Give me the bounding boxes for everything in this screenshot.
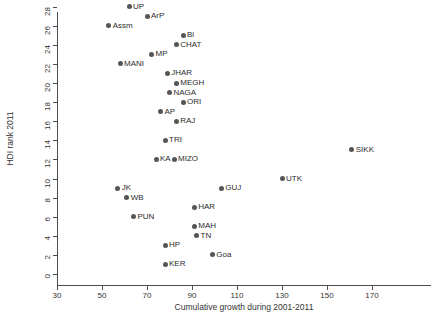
data-point [181, 33, 186, 38]
data-point-label: TRI [169, 136, 182, 144]
x-axis-title: Cumulative growth during 2001-2011 [57, 303, 431, 312]
y-axis-tick [53, 7, 57, 8]
data-point [174, 42, 179, 47]
x-axis-line [57, 285, 431, 286]
y-axis-tick-label: 18 [44, 102, 52, 124]
scatter-chart-figure: 024681012141618202224262830 305070901101… [0, 0, 437, 330]
data-point-label: Assm [113, 22, 133, 30]
data-point-label: GUJ [225, 184, 241, 192]
data-point-label: JK [122, 184, 131, 192]
x-axis-tick-label: 130 [267, 292, 297, 300]
x-axis-tick [102, 286, 103, 290]
data-point [127, 4, 132, 9]
data-point-label: WB [131, 194, 144, 202]
data-point-label: MIZO [178, 155, 198, 163]
data-point [280, 176, 285, 181]
data-point-label: CHAT [180, 41, 201, 49]
data-point [163, 138, 168, 143]
data-point [149, 52, 154, 57]
x-axis-tick-label: 70 [132, 292, 162, 300]
data-point [118, 61, 123, 66]
y-axis-tick-label: 22 [44, 64, 52, 86]
x-axis-tick-label: 90 [177, 292, 207, 300]
data-point-label: AP [165, 108, 176, 116]
data-point-label: MAH [198, 222, 216, 230]
data-point [131, 214, 136, 219]
data-point-label: ORI [187, 98, 201, 106]
x-axis-tick [237, 286, 238, 290]
data-point [124, 195, 129, 200]
data-point [172, 157, 177, 162]
data-point [167, 90, 172, 95]
data-point [154, 157, 159, 162]
y-axis-tick-label: 24 [44, 45, 52, 67]
data-point-label: KA [160, 155, 171, 163]
y-axis-tick-label: 16 [44, 121, 52, 143]
x-axis-tick-label: 170 [357, 292, 387, 300]
data-point-label: MEGH [180, 79, 204, 87]
data-point-label: KER [169, 260, 185, 268]
data-point [194, 233, 199, 238]
data-point [106, 23, 111, 28]
y-axis-tick-label: 10 [44, 179, 52, 201]
x-axis-tick [192, 286, 193, 290]
data-point-label: ArP [151, 12, 164, 20]
x-axis-tick-label: 30 [42, 292, 72, 300]
data-point [349, 147, 354, 152]
x-axis-tick-label: 150 [312, 292, 342, 300]
data-point-label: MP [156, 50, 168, 58]
data-point-label: JHAR [171, 69, 192, 77]
data-point-label: SIKK [356, 146, 374, 154]
data-point [219, 186, 224, 191]
y-axis-tick-label: 4 [44, 236, 52, 258]
data-point-label: MANI [124, 60, 144, 68]
data-point-label: Bi [187, 31, 194, 39]
x-axis-tick [372, 286, 373, 290]
data-point [181, 100, 186, 105]
x-axis-tick [147, 286, 148, 290]
data-point [192, 224, 197, 229]
x-axis-tick-label: 50 [87, 292, 117, 300]
y-axis-title: HDI rank 2011 [6, 89, 15, 189]
plot-area: UPArPAssmBiCHATMPMANIJHARMEGHNAGAORIAPRA… [57, 12, 429, 285]
data-point-label: PUN [138, 213, 155, 221]
data-point [145, 14, 150, 19]
x-axis-tick-label: 110 [222, 292, 252, 300]
data-point-label: NAGA [174, 89, 197, 97]
data-point [163, 262, 168, 267]
y-axis-tick-label: 20 [44, 83, 52, 105]
data-point [174, 119, 179, 124]
y-axis-tick-label: 2 [44, 255, 52, 277]
data-point-label: HAR [198, 203, 215, 211]
y-axis-tick-label: 14 [44, 140, 52, 162]
data-point [163, 243, 168, 248]
data-point [158, 109, 163, 114]
data-point-label: Goa [216, 251, 231, 259]
y-axis-tick-label: 30 [44, 0, 52, 10]
data-point [115, 186, 120, 191]
data-point [210, 252, 215, 257]
data-point-label: RAJ [180, 117, 195, 125]
data-point [174, 81, 179, 86]
data-point-label: UP [133, 3, 144, 11]
data-point-label: UTK [286, 175, 302, 183]
x-axis-tick [57, 286, 58, 290]
x-axis-tick [327, 286, 328, 290]
data-point [192, 205, 197, 210]
data-point-label: TN [201, 232, 212, 240]
data-point [165, 71, 170, 76]
x-axis-tick [282, 286, 283, 290]
y-axis-tick-label: 12 [44, 159, 52, 181]
data-point-label: HP [169, 241, 180, 249]
